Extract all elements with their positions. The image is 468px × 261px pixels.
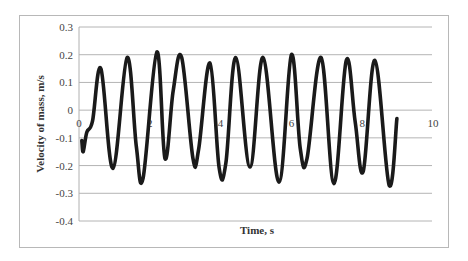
y-tick-label: -0.3 [56,187,74,199]
y-tick-label: -0.2 [56,160,73,172]
x-tick-label: 10 [428,117,440,129]
x-tick-label: 4 [218,117,224,129]
y-tick-label: 0.1 [59,76,73,88]
x-tick-label: 0 [76,117,82,129]
line-chart: 0.30.20.10-0.1-0.2-0.3-0.4 0246810 Time,… [0,0,468,261]
x-tick-label: 6 [289,117,295,129]
x-tick-label: 8 [359,117,365,129]
y-tick-label: -0.4 [56,215,74,227]
y-axis-title: Velocity of mass, m/s [34,75,46,173]
y-tick-label: 0 [68,104,74,116]
y-tick-label: -0.1 [56,132,73,144]
y-tick-label: 0.3 [59,21,73,33]
x-axis-title: Time, s [240,224,275,236]
y-axis-ticks: 0.30.20.10-0.1-0.2-0.3-0.4 [56,21,74,227]
y-tick-label: 0.2 [59,49,73,61]
